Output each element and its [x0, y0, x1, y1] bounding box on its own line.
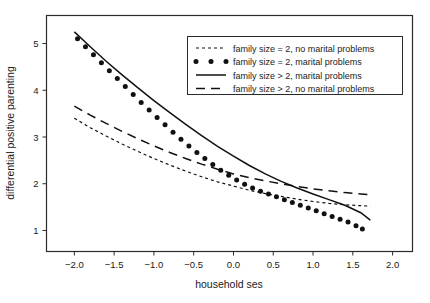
data-point [360, 227, 365, 232]
x-tick-label: −1.0 [145, 259, 164, 270]
data-point [155, 115, 160, 120]
y-tick-label: 2 [33, 178, 38, 189]
x-tick-label: 1.5 [346, 259, 359, 270]
x-tick-label: 0.5 [267, 259, 280, 270]
legend-label: family size > 2, marital problems [233, 71, 362, 81]
x-tick-label: 1.0 [306, 259, 319, 270]
legend-label: family size = 2, marital problems [233, 57, 362, 67]
legend-label: family size > 2, no marital problems [233, 84, 375, 94]
x-tick-label: 2.0 [386, 259, 399, 270]
legend-label: family size = 2, no marital problems [233, 44, 375, 54]
chart-figure: −2.0−1.5−1.0−0.50.00.51.01.52.0 12345 ho… [0, 0, 430, 303]
data-curve [74, 118, 370, 206]
legend-swatch-dotted [224, 59, 229, 64]
data-point [194, 150, 199, 155]
y-axis-tick-labels: 12345 [33, 38, 38, 236]
x-axis-tick-labels: −2.0−1.5−1.0−0.50.00.51.01.52.0 [65, 259, 399, 270]
data-point [99, 60, 104, 65]
chart-legend: family size = 2, no marital problemsfami… [188, 37, 403, 95]
data-point [171, 130, 176, 135]
data-point [210, 162, 215, 167]
data-point [186, 143, 191, 148]
data-point [330, 214, 335, 219]
data-point [306, 206, 311, 211]
data-point [314, 208, 319, 213]
data-point [242, 182, 247, 187]
y-tick-label: 1 [33, 225, 38, 236]
data-point [131, 92, 136, 97]
data-point [274, 194, 279, 199]
x-axis-ticks [74, 252, 392, 256]
data-point [123, 84, 128, 89]
y-tick-label: 4 [33, 85, 38, 96]
data-series [74, 118, 370, 206]
y-tick-label: 5 [33, 38, 38, 49]
data-point [202, 156, 207, 161]
data-point [115, 76, 120, 81]
legend-swatch-dotted [194, 59, 199, 64]
data-point [250, 185, 255, 190]
data-point [282, 197, 287, 202]
data-point [163, 122, 168, 127]
x-tick-label: −1.5 [105, 259, 124, 270]
data-point [298, 203, 303, 208]
data-point [258, 189, 263, 194]
x-tick-label: −2.0 [65, 259, 84, 270]
data-point [139, 100, 144, 105]
data-point [107, 68, 112, 73]
y-tick-label: 3 [33, 132, 38, 143]
x-axis-title: household ses [195, 278, 263, 290]
x-tick-label: −0.5 [184, 259, 203, 270]
data-point [354, 223, 359, 228]
y-axis-title: differential positive parenting [4, 66, 16, 200]
data-point [91, 52, 96, 57]
data-point [322, 211, 327, 216]
legend-swatch-dotted [209, 59, 214, 64]
data-point [346, 220, 351, 225]
data-point [266, 192, 271, 197]
data-point [147, 107, 152, 112]
data-point [338, 217, 343, 222]
x-tick-label: 0.0 [227, 259, 240, 270]
plot-area: −2.0−1.5−1.0−0.50.00.51.01.52.0 12345 ho… [0, 0, 430, 303]
data-point [178, 137, 183, 142]
data-point [290, 200, 295, 205]
data-point [234, 177, 239, 182]
data-point [83, 44, 88, 49]
